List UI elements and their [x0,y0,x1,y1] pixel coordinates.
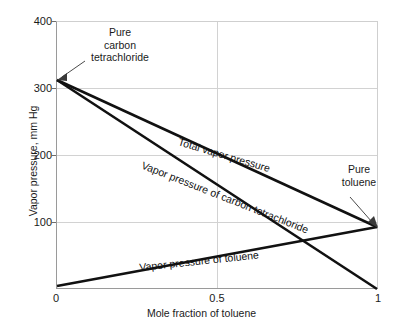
vapor-pressure-chart: 400 300 200 100 0 0.5 1 Vapor pressure, … [0,0,403,326]
annotation-arrow-head-ccl4 [57,73,67,81]
annotation-pure-toluene: Pure toluene [320,163,398,188]
annotation-pure-carbon-tetrachloride: Pure carbon tetrachloride [62,26,178,64]
